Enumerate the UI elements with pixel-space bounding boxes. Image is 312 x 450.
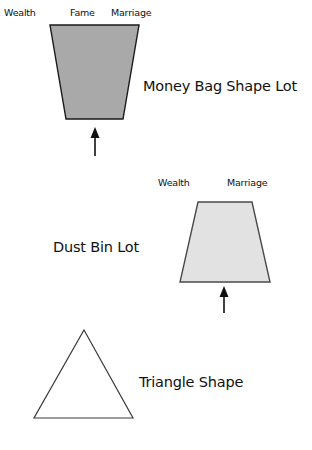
money-bag-caption: Money Bag Shape Lot bbox=[143, 79, 297, 94]
dust-bin-corner-label-wealth: Wealth bbox=[158, 178, 190, 188]
money-bag-corner-label-marriage: Marriage bbox=[111, 8, 151, 18]
money-bag-arrow-up-icon bbox=[91, 127, 100, 156]
triangle-caption: Triangle Shape bbox=[139, 375, 243, 390]
money-bag-corner-label-wealth: Wealth bbox=[4, 8, 36, 18]
triangle-outline bbox=[34, 330, 133, 418]
money-bag-shape-group bbox=[50, 25, 139, 156]
dust-bin-corner-label-marriage: Marriage bbox=[227, 178, 267, 188]
dust-bin-arrow-up-icon bbox=[220, 286, 229, 313]
dust-bin-trapezoid bbox=[180, 202, 270, 282]
money-bag-trapezoid bbox=[50, 25, 139, 119]
diagram-page: Wealth Fame Marriage Money Bag Shape Lot… bbox=[0, 0, 312, 450]
dust-bin-shape-group bbox=[180, 202, 270, 313]
dust-bin-caption: Dust Bin Lot bbox=[53, 240, 139, 255]
triangle-shape-group bbox=[34, 330, 133, 418]
money-bag-corner-label-fame: Fame bbox=[70, 8, 95, 18]
